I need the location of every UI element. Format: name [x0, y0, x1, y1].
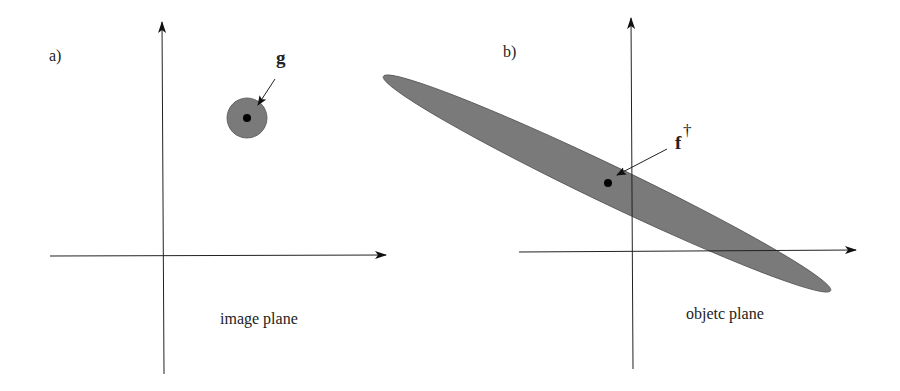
panel-a-label: a) — [49, 47, 61, 65]
pointer-arrow-f — [617, 149, 667, 175]
panel-b-label: b) — [503, 43, 516, 61]
caption-object-plane: objetc plane — [686, 305, 764, 323]
pointer-arrow-g — [258, 79, 275, 105]
vector-label-f: f — [675, 132, 682, 153]
vector-label-g: g — [276, 47, 286, 68]
y-axis-a — [162, 22, 164, 374]
caption-image-plane: image plane — [220, 310, 298, 328]
point-g — [243, 114, 251, 122]
x-axis-a — [50, 255, 386, 256]
vector-superscript-dagger: † — [683, 121, 692, 140]
panel-a: a) g image plane — [49, 22, 386, 374]
x-axis-b — [519, 250, 856, 252]
panel-b: b) f † objetc plane — [375, 18, 856, 369]
point-f-dagger — [604, 179, 612, 187]
diagram: a) g image plane b) f † objetc plane — [0, 0, 900, 391]
